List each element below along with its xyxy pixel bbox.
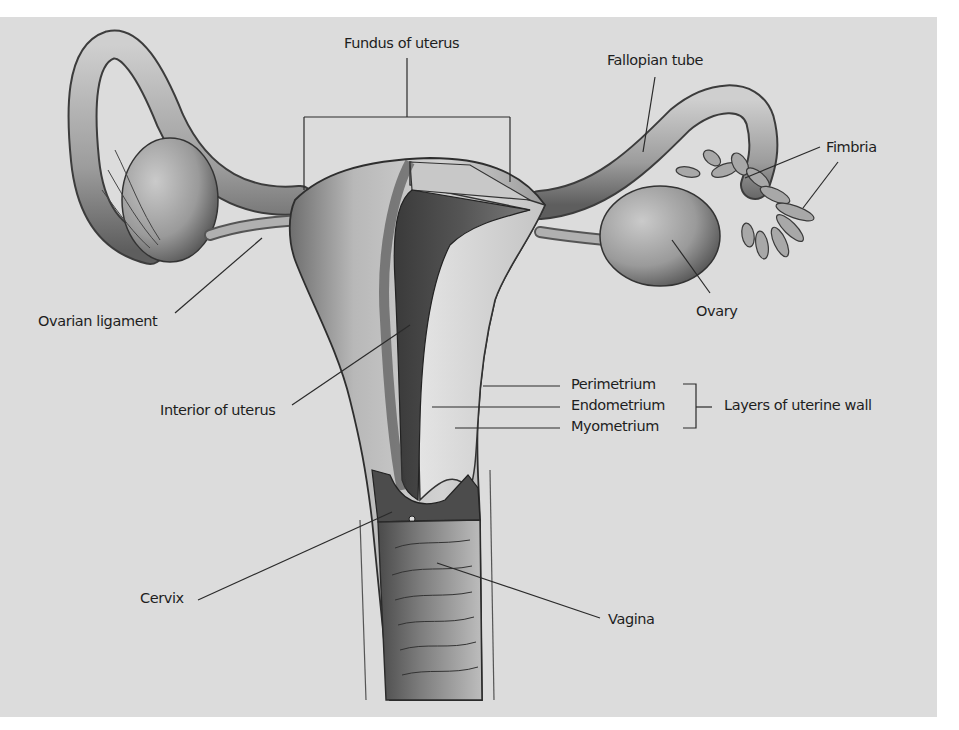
label-fimbria: Fimbria (826, 140, 877, 155)
uterus-anatomy-illustration (0, 0, 959, 730)
label-ovary: Ovary (696, 304, 737, 319)
label-ovarian-ligament: Ovarian ligament (38, 314, 157, 329)
label-layers-of-uterine-wall: Layers of uterine wall (724, 398, 872, 413)
label-fallopian-tube: Fallopian tube (607, 53, 703, 68)
label-perimetrium: Perimetrium (571, 377, 656, 392)
right-ovary (600, 186, 720, 286)
vagina (378, 520, 482, 700)
label-cervix: Cervix (140, 591, 184, 606)
label-myometrium: Myometrium (571, 419, 659, 434)
label-vagina: Vagina (608, 612, 655, 627)
leader-lines (175, 58, 838, 618)
label-interior-of-uterus: Interior of uterus (160, 403, 275, 418)
label-fundus-of-uterus: Fundus of uterus (344, 36, 459, 51)
label-endometrium: Endometrium (571, 398, 665, 413)
